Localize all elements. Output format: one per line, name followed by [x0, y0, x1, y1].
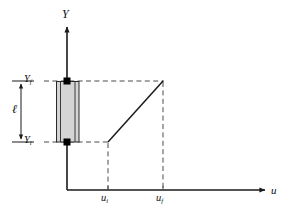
node-final-marker: [64, 78, 71, 85]
bar-element-group: [57, 82, 80, 143]
label-u-initial-sub: i: [106, 197, 108, 204]
u-axis-label: u: [271, 185, 277, 196]
figure-diagram: Y u Yf Yi ℓ ui uf: [0, 0, 287, 210]
displacement-line: [108, 81, 163, 142]
label-length: ℓ: [12, 103, 17, 115]
figure-canvas: [0, 0, 287, 210]
label-u-initial: ui: [101, 193, 108, 205]
axis-group: [67, 27, 265, 190]
label-y-initial-sub: i: [30, 139, 32, 146]
label-u-final: uf: [156, 193, 163, 205]
bar-element-body: [57, 82, 80, 143]
label-y-initial: Yi: [24, 135, 32, 147]
node-initial-marker: [64, 139, 71, 146]
label-y-final: Yf: [24, 74, 32, 86]
y-axis-label: Y: [62, 8, 69, 20]
displacement-line-group: [108, 81, 163, 142]
label-y-final-sub: f: [30, 78, 32, 85]
label-u-final-sub: f: [161, 197, 163, 204]
